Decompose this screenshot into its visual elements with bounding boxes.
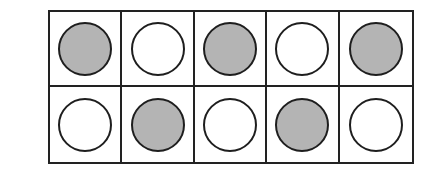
filled-counter-icon bbox=[275, 98, 329, 152]
empty-counter-icon bbox=[58, 98, 112, 152]
frame-cell-r2-c5 bbox=[340, 87, 412, 162]
filled-counter-icon bbox=[349, 22, 403, 76]
frame-cell-r2-c2 bbox=[122, 87, 194, 162]
empty-counter-icon bbox=[203, 98, 257, 152]
frame-cell-r1-c2 bbox=[122, 12, 194, 87]
filled-counter-icon bbox=[131, 98, 185, 152]
filled-counter-icon bbox=[203, 22, 257, 76]
empty-counter-icon bbox=[131, 22, 185, 76]
frame-cell-r2-c1 bbox=[50, 87, 122, 162]
frame-cell-r1-c4 bbox=[267, 12, 339, 87]
filled-counter-icon bbox=[58, 22, 112, 76]
frame-cell-r1-c5 bbox=[340, 12, 412, 87]
empty-counter-icon bbox=[349, 98, 403, 152]
frame-cell-r2-c3 bbox=[195, 87, 267, 162]
frame-cell-r2-c4 bbox=[267, 87, 339, 162]
frame-cell-r1-c1 bbox=[50, 12, 122, 87]
frame-cell-r1-c3 bbox=[195, 12, 267, 87]
ten-frame bbox=[48, 10, 414, 164]
empty-counter-icon bbox=[275, 22, 329, 76]
